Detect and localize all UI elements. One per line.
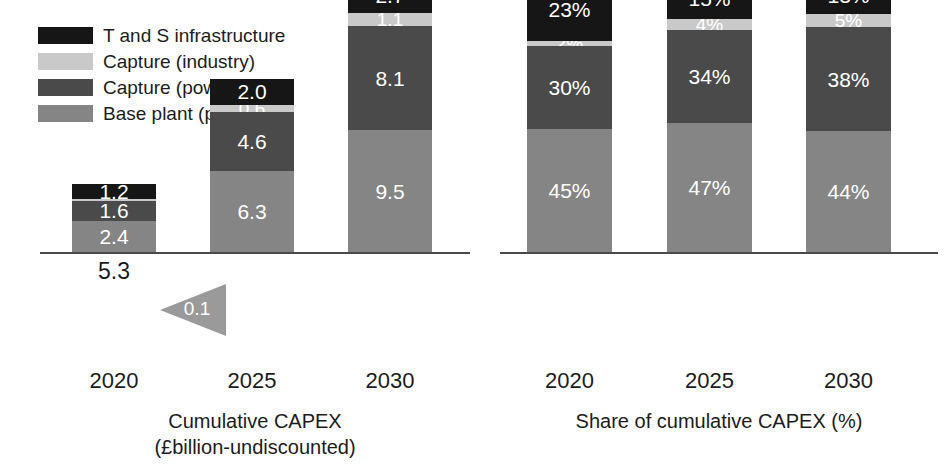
- share-bar-2025: 15% 4% 34% 47%: [667, 0, 752, 252]
- capex-tick-2020: 2020: [72, 370, 156, 392]
- capex-x-axis: [40, 252, 470, 254]
- capex-seg-2020-ts: 1.2: [72, 184, 156, 199]
- share-chart-panel: 23% 2% 30% 45% 15% 4% 34% 47% 13% 5% 38%…: [500, 0, 949, 473]
- share-seg-2025-capture-industry: 4%: [667, 19, 752, 30]
- capex-seg-2030-capture-industry: 1.1: [348, 13, 432, 27]
- capex-seg-2020-base-plant: 2.4: [72, 221, 156, 252]
- share-seg-2020-ts: 23%: [527, 0, 612, 41]
- capex-bar-2030: 2.7 1.1 8.1 9.5: [348, 0, 432, 252]
- share-bar-2030: 13% 5% 38% 44%: [806, 0, 891, 252]
- capex-bar-total-2020: 5.3: [72, 260, 156, 283]
- share-seg-2025-base-plant: 47%: [667, 123, 752, 252]
- share-seg-2020-base-plant: 45%: [527, 129, 612, 252]
- capex-seg-2020-capture-power: 1.6: [72, 201, 156, 222]
- share-seg-2030-capture-power: 38%: [806, 27, 891, 131]
- share-x-axis: [500, 252, 938, 254]
- capex-bar-2025: 2.0 0.6 4.6 6.3: [210, 79, 294, 252]
- share-tick-2025: 2025: [667, 370, 752, 392]
- share-seg-2030-capture-industry: 5%: [806, 14, 891, 28]
- share-tick-2020: 2020: [527, 370, 612, 392]
- capex-callout-value: 0.1: [174, 298, 220, 320]
- capex-seg-2025-capture-industry: 0.6: [210, 105, 294, 113]
- share-tick-2030: 2030: [806, 370, 891, 392]
- capex-seg-2030-capture-power: 8.1: [348, 26, 432, 130]
- share-seg-2030-base-plant: 44%: [806, 131, 891, 252]
- share-seg-2025-ts: 15%: [667, 0, 752, 19]
- capex-callout-0point1: 0.1: [158, 282, 228, 338]
- capex-bar-2020: 1.2 1.6 2.4: [72, 184, 156, 252]
- capex-seg-2030-base-plant: 9.5: [348, 130, 432, 252]
- share-bar-2020: 23% 2% 30% 45%: [527, 0, 612, 252]
- capex-seg-2030-ts: 2.7: [348, 0, 432, 13]
- capex-seg-2025-base-plant: 6.3: [210, 171, 294, 252]
- share-seg-2020-capture-power: 30%: [527, 46, 612, 128]
- capex-seg-2025-capture-power: 4.6: [210, 112, 294, 171]
- share-plot-area: 23% 2% 30% 45% 15% 4% 34% 47% 13% 5% 38%…: [500, 0, 949, 363]
- capex-caption-line1: Cumulative CAPEX: [40, 408, 470, 434]
- share-caption: Share of cumulative CAPEX (%): [500, 408, 938, 434]
- capex-tick-2025: 2025: [210, 370, 294, 392]
- share-seg-2025-capture-power: 34%: [667, 30, 752, 123]
- share-seg-2030-ts: 13%: [806, 0, 891, 14]
- capex-chart-panel: 5.3 1.2 1.6 2.4 0.1 13.5 2.0 0.6 4.6 6.3…: [0, 0, 500, 473]
- capex-seg-2025-ts: 2.0: [210, 79, 294, 105]
- capex-tick-2030: 2030: [348, 370, 432, 392]
- capex-plot-area: 5.3 1.2 1.6 2.4 0.1 13.5 2.0 0.6 4.6 6.3…: [0, 0, 500, 363]
- capex-caption-line2: (£billion-undiscounted): [40, 434, 470, 460]
